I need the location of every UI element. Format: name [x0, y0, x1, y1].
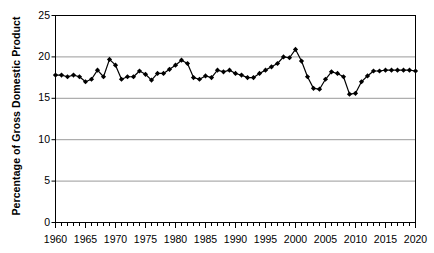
data-point-marker [407, 68, 412, 73]
chart-container: Percentage of Gross Domestic Product 051… [0, 0, 434, 253]
data-point-marker [305, 74, 310, 79]
y-tick-label: 20 [20, 51, 50, 61]
data-point-marker [395, 68, 400, 73]
data-point-marker [53, 73, 58, 78]
data-point-marker [389, 68, 394, 73]
data-point-marker [191, 75, 196, 80]
data-point-marker [383, 68, 388, 73]
data-point-marker [341, 74, 346, 79]
data-point-marker [71, 73, 76, 78]
x-tick-label: 2010 [339, 234, 373, 245]
data-point-marker [347, 92, 352, 97]
data-point-marker [377, 68, 382, 73]
x-tick-label: 2000 [279, 234, 313, 245]
chart-plot-svg [0, 0, 434, 253]
data-point-marker [119, 77, 124, 82]
data-point-marker [401, 68, 406, 73]
data-point-marker [185, 61, 190, 66]
x-tick-label: 1985 [189, 234, 223, 245]
data-point-marker [197, 77, 202, 82]
data-point-marker [269, 64, 274, 69]
y-tick-label: 0 [20, 217, 50, 227]
x-tick-label: 1960 [39, 234, 73, 245]
data-point-marker [335, 71, 340, 76]
data-point-marker [227, 68, 232, 73]
data-point-marker [125, 74, 130, 79]
x-tick-label: 2015 [369, 234, 403, 245]
data-point-marker [59, 73, 64, 78]
data-point-marker [203, 73, 208, 78]
data-point-marker [65, 74, 70, 79]
plot-frame [56, 16, 416, 223]
data-point-marker [221, 69, 226, 74]
x-tick-label: 2005 [309, 234, 343, 245]
x-tick-label: 1980 [159, 234, 193, 245]
y-tick-label: 10 [20, 134, 50, 144]
data-point-marker [233, 71, 238, 76]
data-point-marker [239, 73, 244, 78]
data-point-marker [311, 86, 316, 91]
x-tick-label: 1975 [129, 234, 163, 245]
data-point-marker [413, 68, 418, 73]
x-tick-label: 1970 [99, 234, 133, 245]
x-tick-label: 1990 [219, 234, 253, 245]
data-point-marker [299, 58, 304, 63]
y-tick-label: 5 [20, 175, 50, 185]
y-tick-label: 15 [20, 92, 50, 102]
data-point-marker [263, 68, 268, 73]
y-tick-label: 25 [20, 10, 50, 20]
data-point-marker [317, 87, 322, 92]
data-point-marker [353, 91, 358, 96]
x-tick-label: 1995 [249, 234, 283, 245]
x-tick-label: 1965 [69, 234, 103, 245]
data-point-marker [245, 75, 250, 80]
x-tick-label: 2020 [399, 234, 433, 245]
